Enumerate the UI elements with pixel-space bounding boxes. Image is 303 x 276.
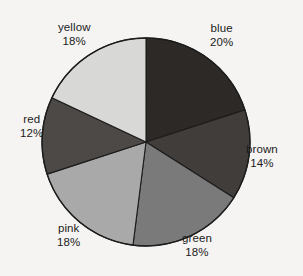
pie-label-name-blue: blue [210,22,233,36]
pie-label-value-yellow: 18% [58,35,91,49]
pie-label-pink: pink18% [57,222,80,249]
pie-label-name-yellow: yellow [58,21,91,35]
pie-label-name-red: red [20,113,43,127]
pie-label-name-brown: brown [246,143,278,157]
pie-label-value-green: 18% [182,246,212,260]
pie-label-name-green: green [182,232,212,246]
pie-label-value-blue: 20% [210,36,233,50]
pie-label-value-brown: 14% [246,157,278,171]
pie-slice-group [42,38,250,246]
pie-label-red: red12% [20,113,43,140]
pie-label-name-pink: pink [57,222,80,236]
pie-chart-figure: blue20%brown14%green18%pink18%red12%yell… [0,0,303,276]
pie-chart-svg [0,0,303,276]
pie-label-value-pink: 18% [57,236,80,250]
pie-label-green: green18% [182,232,212,259]
pie-label-brown: brown14% [246,143,278,170]
pie-label-value-red: 12% [20,127,43,141]
pie-label-blue: blue20% [210,22,233,49]
pie-label-yellow: yellow18% [58,21,91,48]
